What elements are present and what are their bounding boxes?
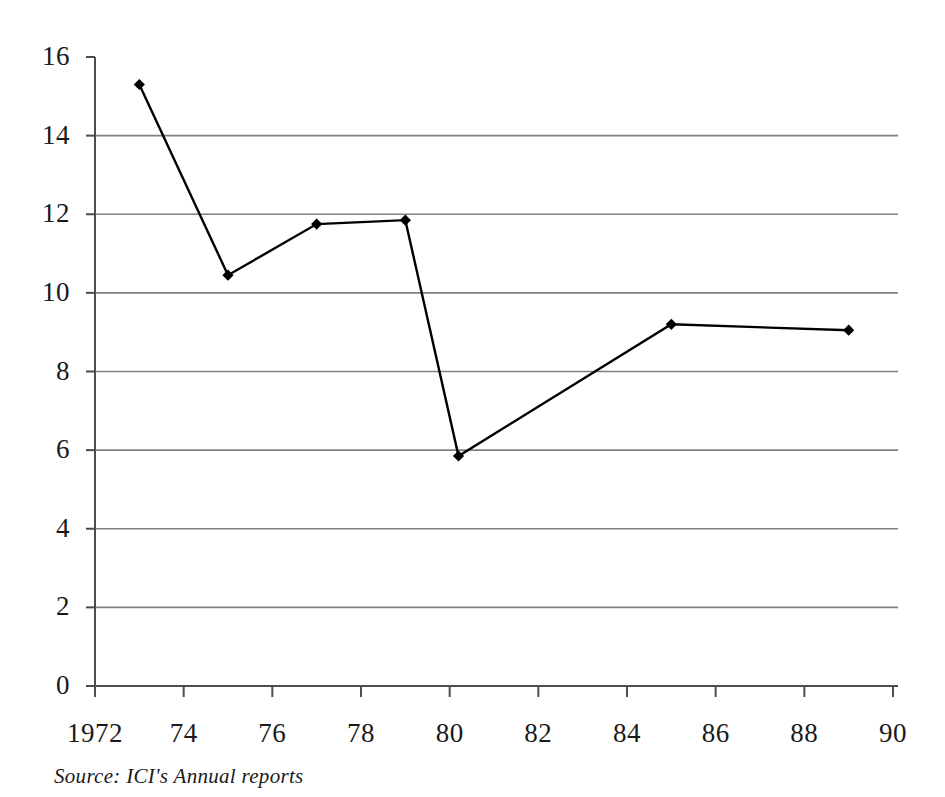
data-point-marker: [134, 79, 145, 90]
y-tick-label: 8: [14, 358, 70, 385]
gridlines-group: [95, 136, 898, 608]
data-point-marker: [843, 325, 854, 336]
x-axis-tick-labels: 1972747678808284868890: [0, 718, 945, 758]
x-tick-label: 90: [833, 718, 945, 748]
y-tick-label: 10: [14, 279, 70, 306]
data-point-marker: [453, 450, 464, 461]
data-point-marker: [222, 270, 233, 281]
y-axis-tick-labels: 0246810121416: [8, 0, 70, 797]
y-tick-label: 2: [14, 593, 70, 620]
line-chart-figure: 0246810121416 1972747678808284868890 Sou…: [0, 0, 945, 797]
data-point-marker: [400, 215, 411, 226]
chart-plot-area: [0, 0, 945, 797]
y-tick-marks-group: [86, 57, 95, 686]
y-tick-label: 6: [14, 436, 70, 463]
data-point-marker: [666, 319, 677, 330]
y-tick-label: 4: [14, 515, 70, 542]
y-tick-label: 12: [14, 200, 70, 227]
data-point-marker: [311, 218, 322, 229]
y-tick-label: 16: [14, 43, 70, 70]
data-series-line: [139, 85, 848, 457]
x-tick-marks-group: [95, 686, 893, 697]
y-tick-label: 0: [14, 672, 70, 699]
source-caption: Source: ICI's Annual reports: [54, 763, 304, 789]
y-tick-label: 14: [14, 122, 70, 149]
